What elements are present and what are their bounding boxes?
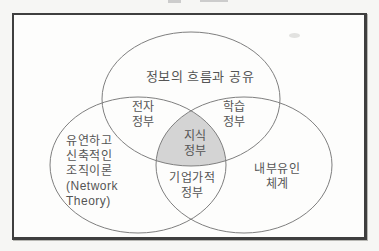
top-circle-label-text: 정보의 흐름과 공유 <box>120 69 280 84</box>
electronic-government-label: 전자 정부 <box>113 100 173 130</box>
entrepreneurial-government-label: 기업가적 정부 <box>157 171 227 201</box>
knowledge-government-label: 지식 정부 <box>165 129 225 159</box>
learning-government-label: 학습 정부 <box>204 100 264 130</box>
venn-circles <box>0 0 379 251</box>
venn-diagram-figure: 정보의 흐름과 공유 전자 정부 학습 정부 지식 정부 기업가적 정부 유연하… <box>0 0 379 251</box>
left-circle-label: 유연하고 신축적인 조직이론 (Network Theory) <box>66 134 138 209</box>
right-circle-label: 내부유인 체계 <box>247 162 307 192</box>
top-circle-label: 정보의 흐름과 공유 <box>120 69 280 84</box>
